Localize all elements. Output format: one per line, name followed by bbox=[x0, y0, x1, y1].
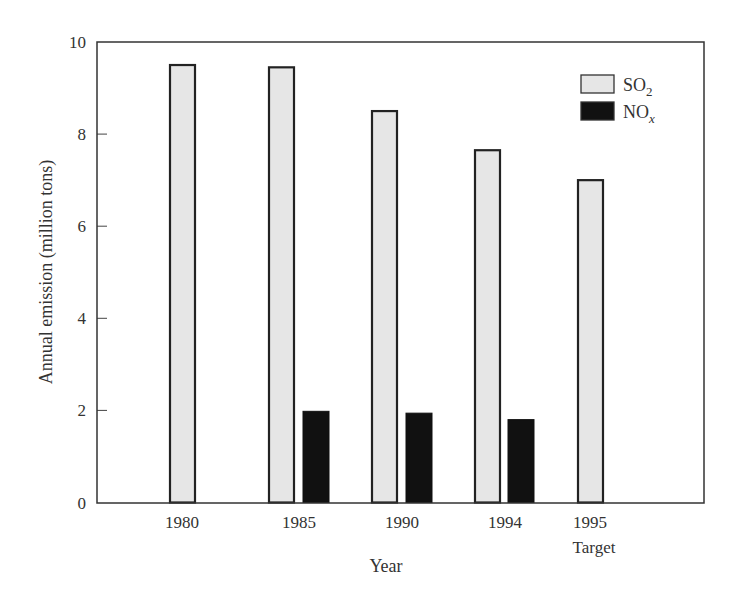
legend: SO2NOx bbox=[581, 75, 655, 126]
bar-nox-1990 bbox=[406, 413, 432, 502]
x-axis-labels: 19801985199019941995Target bbox=[165, 513, 616, 557]
x-tick-label: 1990 bbox=[385, 513, 419, 532]
bar-so2-1994 bbox=[475, 150, 500, 502]
y-tick-label: 8 bbox=[78, 125, 87, 144]
y-tick-label: 0 bbox=[78, 494, 87, 513]
x-axis-title: Year bbox=[369, 556, 402, 576]
y-axis-ticks: 0246810 bbox=[69, 33, 107, 513]
legend-swatch-so2 bbox=[581, 75, 614, 93]
legend-label-so2: SO2 bbox=[623, 75, 653, 99]
x-tick-label: 1985 bbox=[282, 513, 316, 532]
y-tick-label: 4 bbox=[78, 309, 87, 328]
bar-so2-1990 bbox=[372, 111, 397, 502]
x-tick-label: 1995 bbox=[573, 513, 607, 532]
bar-so2-1995 bbox=[578, 180, 603, 502]
bar-so2-1985 bbox=[269, 67, 294, 502]
legend-swatch-nox bbox=[581, 102, 614, 120]
x-tick-label: 1980 bbox=[165, 513, 199, 532]
x-tick-sublabel: Target bbox=[573, 538, 616, 557]
legend-label-nox: NOx bbox=[623, 102, 655, 126]
bars bbox=[170, 65, 603, 502]
y-tick-label: 6 bbox=[78, 217, 87, 236]
y-axis-title: Annual emission (million tons) bbox=[36, 160, 57, 385]
bar-so2-1980 bbox=[170, 65, 195, 502]
y-tick-label: 2 bbox=[78, 401, 87, 420]
y-tick-label: 10 bbox=[69, 33, 86, 52]
emissions-bar-chart: 0246810 19801985199019941995Target Annua… bbox=[0, 0, 743, 605]
bar-nox-1994 bbox=[508, 420, 534, 503]
bar-nox-1985 bbox=[303, 411, 329, 502]
x-tick-label: 1994 bbox=[488, 513, 523, 532]
